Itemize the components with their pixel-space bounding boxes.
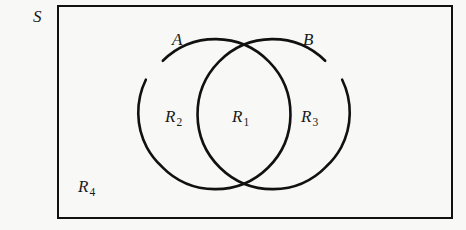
region-label-r3-letter: R — [301, 107, 311, 126]
set-label-b: B — [303, 31, 313, 48]
set-label-a: A — [172, 31, 182, 48]
region-label-r3-subscript: 3 — [311, 116, 318, 128]
universe-label-s: S — [33, 8, 42, 25]
set-a-circle — [138, 39, 290, 189]
set-b-circle — [198, 39, 350, 189]
region-label-r1: R1 — [232, 108, 249, 128]
venn-diagram-figure: S A B R1 R2 R3 R4 — [0, 0, 466, 230]
region-label-r2: R2 — [165, 108, 182, 128]
region-label-r1-subscript: 1 — [242, 116, 249, 128]
region-label-r4-subscript: 4 — [88, 186, 95, 198]
region-label-r2-letter: R — [165, 107, 175, 126]
region-label-r4-letter: R — [78, 177, 88, 196]
region-label-r1-letter: R — [232, 107, 242, 126]
region-label-r3: R3 — [301, 108, 318, 128]
region-label-r4: R4 — [78, 178, 95, 198]
region-label-r2-subscript: 2 — [175, 116, 182, 128]
